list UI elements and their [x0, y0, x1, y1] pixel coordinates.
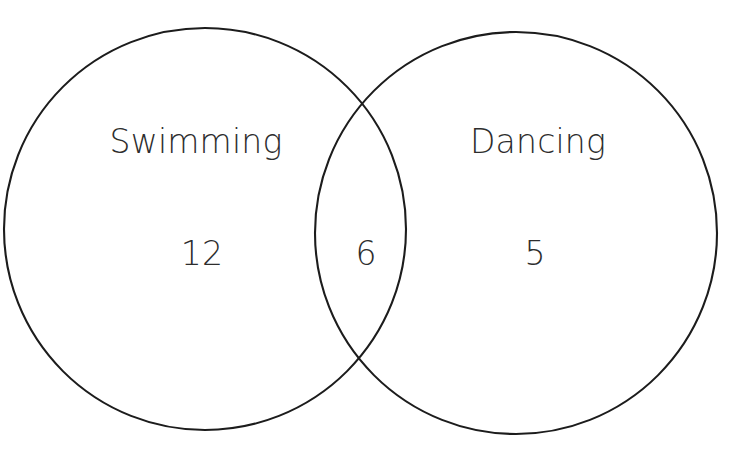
set-circle-swimming [4, 28, 406, 430]
venn-diagram-figure: Swimming Dancing 12 6 5 [0, 0, 736, 453]
count-dancing-only: 5 [524, 234, 545, 273]
count-swimming-only: 12 [181, 234, 223, 273]
count-intersection: 6 [355, 234, 376, 273]
set-label-dancing: Dancing [470, 122, 606, 161]
set-circle-dancing [315, 32, 717, 434]
venn-canvas: Swimming Dancing 12 6 5 [0, 0, 736, 453]
set-label-swimming: Swimming [110, 122, 283, 161]
